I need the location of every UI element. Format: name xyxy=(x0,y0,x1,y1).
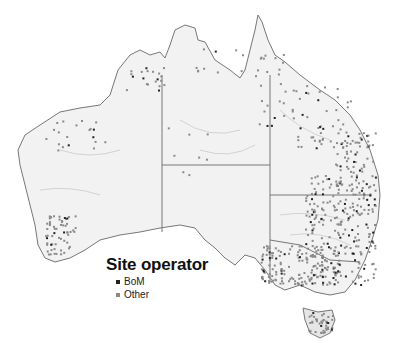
site-marker xyxy=(369,186,371,188)
site-marker xyxy=(373,184,375,186)
site-marker xyxy=(278,69,280,71)
site-marker xyxy=(282,282,284,284)
site-marker xyxy=(198,157,200,159)
site-marker xyxy=(340,245,342,247)
site-marker xyxy=(315,319,317,321)
site-marker xyxy=(45,235,47,237)
site-marker xyxy=(281,280,283,282)
site-marker xyxy=(340,128,342,130)
site-marker xyxy=(366,146,368,148)
site-marker xyxy=(299,98,301,100)
site-marker xyxy=(146,83,148,85)
site-marker xyxy=(275,247,277,249)
site-marker xyxy=(299,245,301,247)
site-marker xyxy=(281,273,283,275)
legend-label-other: Other xyxy=(124,289,149,300)
site-marker xyxy=(367,227,369,229)
site-marker xyxy=(197,70,199,72)
site-marker xyxy=(360,276,362,278)
site-marker xyxy=(315,215,317,217)
site-marker xyxy=(322,201,324,203)
site-marker xyxy=(155,81,157,83)
mainland-outline xyxy=(18,15,380,295)
site-marker xyxy=(54,228,56,230)
site-marker xyxy=(267,125,269,127)
site-marker xyxy=(346,153,348,155)
site-marker xyxy=(317,205,319,207)
site-marker xyxy=(313,274,315,276)
site-marker xyxy=(373,273,375,275)
site-marker xyxy=(329,200,331,202)
site-marker xyxy=(163,67,165,69)
site-marker xyxy=(215,51,217,53)
site-marker xyxy=(298,274,300,276)
site-marker xyxy=(344,157,346,159)
site-marker xyxy=(325,321,327,323)
site-marker xyxy=(307,234,309,236)
site-marker xyxy=(262,259,264,261)
site-marker xyxy=(63,231,65,233)
site-marker xyxy=(346,151,348,153)
site-marker xyxy=(347,168,349,170)
site-marker xyxy=(358,133,360,135)
site-marker xyxy=(163,84,165,86)
site-marker xyxy=(188,174,190,176)
site-marker xyxy=(359,192,361,194)
site-marker xyxy=(331,319,333,321)
site-marker xyxy=(347,101,349,103)
site-marker xyxy=(95,121,97,123)
site-marker xyxy=(54,248,56,250)
site-marker xyxy=(320,143,322,145)
site-marker xyxy=(269,253,271,255)
site-marker xyxy=(350,171,352,173)
site-marker xyxy=(141,71,143,73)
site-marker xyxy=(168,127,170,129)
site-marker xyxy=(260,85,262,87)
site-marker xyxy=(321,237,323,239)
site-marker xyxy=(307,211,309,213)
site-marker xyxy=(335,272,337,274)
site-marker xyxy=(361,190,363,192)
site-marker xyxy=(317,276,319,278)
site-marker xyxy=(335,279,337,281)
site-marker xyxy=(317,263,319,265)
site-marker xyxy=(283,115,285,117)
site-marker xyxy=(321,261,323,263)
site-marker xyxy=(311,283,313,285)
site-marker xyxy=(360,251,362,253)
site-marker xyxy=(358,277,360,279)
site-marker xyxy=(351,271,353,273)
site-marker xyxy=(60,224,62,226)
site-marker xyxy=(269,251,271,253)
site-marker xyxy=(356,142,358,144)
site-marker xyxy=(335,164,337,166)
site-marker xyxy=(351,229,353,231)
site-marker xyxy=(333,205,335,207)
site-marker xyxy=(48,253,50,255)
site-marker xyxy=(321,332,323,334)
site-marker xyxy=(360,137,362,139)
site-marker xyxy=(342,233,344,235)
site-marker xyxy=(299,256,301,258)
site-marker xyxy=(314,188,316,190)
site-marker xyxy=(339,200,341,202)
site-marker xyxy=(364,264,366,266)
site-marker xyxy=(302,114,304,116)
site-marker xyxy=(293,90,295,92)
site-marker xyxy=(322,139,324,141)
site-marker xyxy=(292,111,294,113)
site-marker xyxy=(50,249,52,251)
site-marker xyxy=(372,144,374,146)
site-marker xyxy=(217,71,219,73)
site-marker xyxy=(373,277,375,279)
site-marker xyxy=(325,276,327,278)
site-marker xyxy=(47,251,49,253)
site-marker xyxy=(356,151,358,153)
site-marker xyxy=(309,322,311,324)
site-marker xyxy=(314,140,316,142)
site-marker xyxy=(349,184,351,186)
site-marker xyxy=(313,209,315,211)
site-marker xyxy=(319,275,321,277)
site-marker xyxy=(297,283,299,285)
site-marker xyxy=(291,245,293,247)
